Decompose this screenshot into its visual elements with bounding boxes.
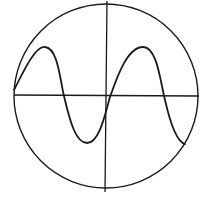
vertical-axis [105, 1, 107, 192]
oscilloscope-diagram [0, 0, 206, 203]
diagram-canvas [0, 0, 206, 203]
